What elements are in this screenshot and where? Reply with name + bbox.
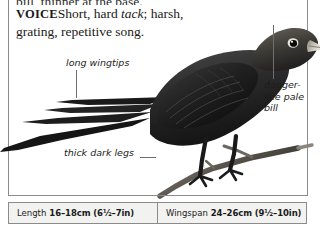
field-guide-page: bill, thinner at the base. VOICEShort, h…: [0, 0, 320, 230]
length-label: Length: [17, 208, 46, 218]
voice-second-line: grating, repetitive song.: [16, 23, 246, 40]
perch-branch: [160, 145, 312, 196]
measurements-bar: Length 16–18cm (6½–7in) Wingspan 24–26cm…: [8, 202, 307, 224]
leader-line-wingtips: [76, 70, 77, 98]
wingspan-value: 24–26cm (9½–10in): [211, 208, 302, 218]
leader-line-legs: [140, 157, 156, 158]
wingspan-label: Wingspan: [166, 208, 208, 218]
length-value: 16–18cm (6½–7in): [49, 208, 134, 218]
bird-head: [252, 28, 318, 71]
bird-bill: [307, 40, 320, 52]
leader-line-bill: [273, 25, 274, 79]
voice-text-b: ; harsh,: [144, 6, 184, 21]
callout-dagger-like-pale-bill: dagger- like pale bill: [264, 79, 304, 114]
callout-thick-dark-legs: thick dark legs: [64, 147, 134, 159]
column-rule-left: [8, 0, 9, 196]
column-rule-right: [307, 0, 308, 196]
measure-bar-top-rule: [8, 195, 307, 196]
bird-wing: [156, 62, 258, 128]
bird-legs: [190, 136, 242, 186]
bird-tail-and-wingtips: [0, 97, 168, 152]
voice-text-block: bill, thinner at the base. VOICEShort, h…: [16, 0, 246, 40]
voice-call-word: tack: [121, 6, 144, 21]
measurement-wingspan: Wingspan 24–26cm (9½–10in): [158, 203, 306, 223]
callout-long-wingtips: long wingtips: [66, 57, 129, 69]
voice-first-line: VOICEShort, hard tack; harsh,: [16, 5, 246, 23]
measurement-length: Length 16–18cm (6½–7in): [9, 203, 158, 223]
voice-keyword: VOICE: [16, 7, 58, 21]
voice-text-a: Short, hard: [58, 6, 121, 21]
bird-eye: [288, 38, 299, 48]
